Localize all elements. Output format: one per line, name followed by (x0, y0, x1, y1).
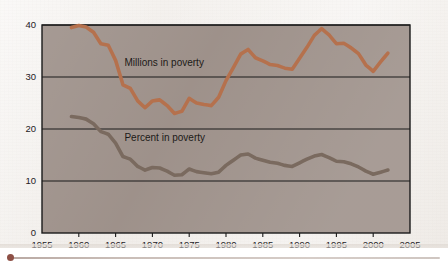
series-annotation-1: Millions in poverty (124, 57, 203, 68)
y-tick-label: 0 (31, 227, 36, 238)
y-axis-tick-labels: 010203040 (25, 19, 36, 238)
y-tick-label: 40 (25, 19, 36, 30)
y-tick-label: 20 (25, 123, 36, 134)
chart-canvas: 0102030401955196019651970197519801985199… (0, 0, 448, 248)
y-tick-label: 30 (25, 71, 36, 82)
poverty-line-chart-figure: 0102030401955196019651970197519801985199… (0, 0, 448, 248)
series-annotation-2: Percent in poverty (124, 132, 205, 143)
scanner-pivot-dot (7, 254, 14, 261)
y-tick-label: 10 (25, 175, 36, 186)
scanner-rule-line (8, 257, 440, 259)
scanned-chart-page: 0102030401955196019651970197519801985199… (0, 0, 448, 269)
